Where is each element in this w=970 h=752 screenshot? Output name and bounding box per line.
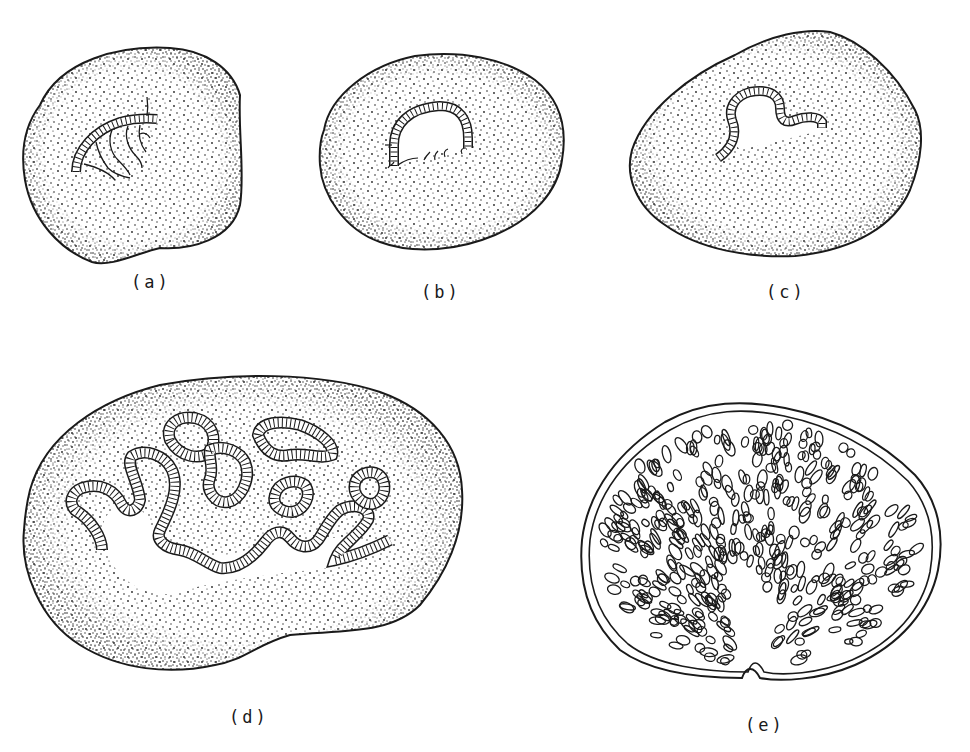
section-d-drawing xyxy=(0,360,520,752)
panel-e-label: (e) xyxy=(745,715,785,735)
section-e-drawing xyxy=(570,360,970,752)
section-c-drawing xyxy=(620,0,970,320)
panel-b: (b) xyxy=(310,20,630,320)
panel-d: (d) xyxy=(0,360,520,752)
panel-c: (c) xyxy=(620,0,970,320)
section-a-drawing xyxy=(0,0,320,300)
section-b-drawing xyxy=(310,20,630,320)
panel-d-label: (d) xyxy=(229,707,269,727)
panel-c-label: (c) xyxy=(766,282,806,302)
panel-b-label: (b) xyxy=(421,282,461,302)
panel-a-label: (a) xyxy=(131,272,171,292)
panel-a: (a) xyxy=(0,0,320,300)
panel-e: (e) xyxy=(570,360,970,752)
